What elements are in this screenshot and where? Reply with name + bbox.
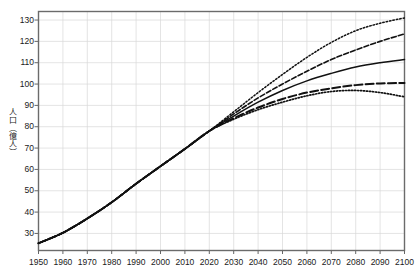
y-tick-label: 30 xyxy=(8,228,34,238)
series-line-high-variant xyxy=(39,18,405,243)
data-series-group xyxy=(39,18,405,243)
y-tick-label: 90 xyxy=(8,100,34,110)
y-tick-label: 80 xyxy=(8,121,34,131)
axis-ticks xyxy=(35,20,405,254)
y-tick-label: 40 xyxy=(8,207,34,217)
y-tick-label: 60 xyxy=(8,164,34,174)
y-tick-label: 120 xyxy=(8,36,34,46)
y-tick-label: 70 xyxy=(8,143,34,153)
chart-plot-area xyxy=(0,0,418,275)
y-tick-label: 110 xyxy=(8,57,34,67)
series-line-low-variant xyxy=(39,90,405,243)
y-tick-label: 100 xyxy=(8,79,34,89)
x-tick-label: 2100 xyxy=(390,257,418,267)
series-line-low-medium-variant xyxy=(39,83,405,243)
population-projection-chart: 人口（億人） 30405060708090100110120130 195019… xyxy=(0,0,418,275)
y-tick-label: 50 xyxy=(8,185,34,195)
y-tick-label: 130 xyxy=(8,15,34,25)
